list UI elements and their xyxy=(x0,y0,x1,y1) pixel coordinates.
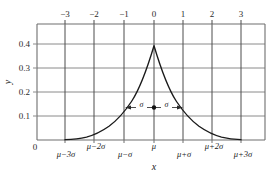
x-bottom-tick-label-mu+2sigma: μ+2σ xyxy=(204,141,224,151)
left-tick-marks xyxy=(33,44,37,116)
x-top-tick-label--2: −2 xyxy=(89,9,99,19)
x-top-tick-label--1: −1 xyxy=(119,9,129,19)
x-top-tick-label-1: 1 xyxy=(181,9,186,19)
x-bottom-tick-label-mu-2sigma: μ−2σ xyxy=(86,141,106,151)
y-tick-label-0.4: 0.4 xyxy=(19,39,31,49)
y-tick-label-0.1: 0.1 xyxy=(19,111,30,121)
normal-distribution-figure: σ σ 0.4 0.3 0.2 0.1 0 −3 −2 −1 0 1 2 3 μ… xyxy=(0,0,272,175)
mean-point-marker xyxy=(152,105,156,109)
x-top-tick-label-3: 3 xyxy=(239,9,244,19)
x-top-tick-labels: −3 −2 −1 0 1 2 3 xyxy=(60,9,244,19)
top-tick-marks xyxy=(65,20,241,24)
x-bottom-tick-label-mu+3sigma: μ+3σ xyxy=(233,149,253,159)
y-tick-label-0.3: 0.3 xyxy=(19,63,31,73)
x-top-tick-label-0: 0 xyxy=(152,9,157,19)
y-tick-labels: 0.4 0.3 0.2 0.1 0 xyxy=(19,39,38,152)
chart-canvas: σ σ 0.4 0.3 0.2 0.1 0 −3 −2 −1 0 1 2 3 μ… xyxy=(0,0,272,175)
x-top-tick-label-2: 2 xyxy=(210,9,215,19)
x-bottom-tick-labels: μ−3σ μ−2σ μ−σ μ μ+σ μ+2σ μ+3σ xyxy=(56,141,253,159)
x-axis-title: x xyxy=(151,161,157,172)
y-tick-label-0.2: 0.2 xyxy=(19,87,30,97)
x-bottom-tick-label-mu: μ xyxy=(151,141,156,151)
y-tick-label-0: 0 xyxy=(33,142,38,152)
x-bottom-tick-label-mu-sigma: μ−σ xyxy=(117,149,133,159)
x-bottom-tick-label-mu-3sigma: μ−3σ xyxy=(56,149,76,159)
plot-background xyxy=(37,24,265,140)
x-bottom-tick-label-mu+sigma: μ+σ xyxy=(176,149,192,159)
x-top-tick-label--3: −3 xyxy=(60,9,70,19)
y-axis-title: y xyxy=(2,79,13,85)
